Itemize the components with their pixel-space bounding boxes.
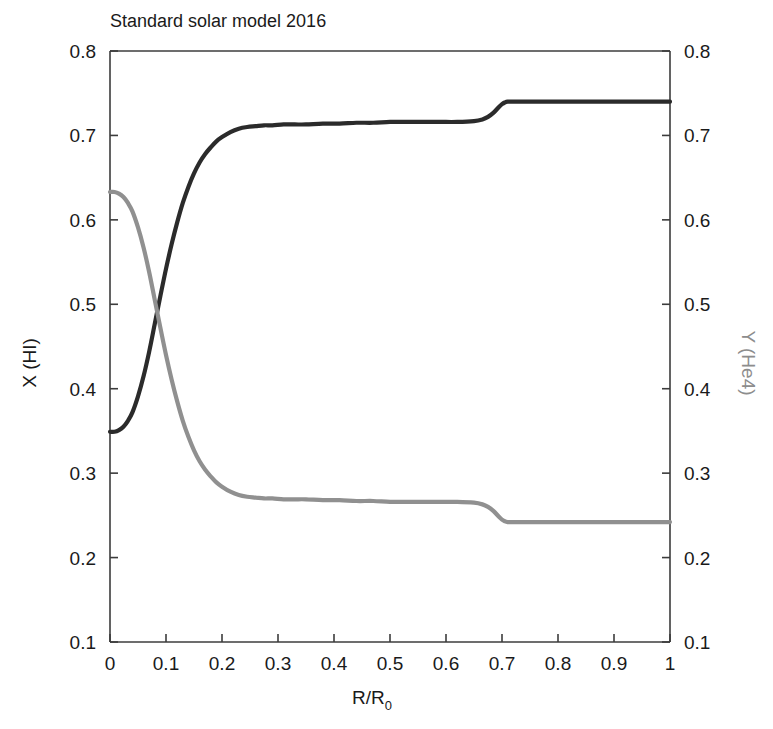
x-tick-label: 0.5 [377,653,403,674]
x-tick-label: 0.8 [545,653,571,674]
x-tick-label: 1 [665,653,676,674]
y-axis-left-title: X (HI) [19,338,40,388]
y-left-tick-label: 0.7 [70,125,96,146]
x-tick-label: 0.1 [153,653,179,674]
chart-figure: Standard solar model 2016 00.10.20.30.40… [0,0,773,729]
x-tick-label: 0.2 [209,653,235,674]
x-tick-label: 0.6 [433,653,459,674]
y-right-tick-label: 0.3 [684,463,710,484]
x-tick-label: 0.7 [489,653,515,674]
x-tick-label: 0.4 [321,653,348,674]
x-axis-title-sub: 0 [385,698,392,713]
y-right-tick-label: 0.7 [684,125,710,146]
y-right-tick-label: 0.6 [684,210,710,231]
y-right-tick-label: 0.8 [684,41,710,62]
x-axis-title-main: R/R [352,687,385,708]
y-left-tick-label: 0.2 [70,548,96,569]
x-tick-label: 0.9 [601,653,627,674]
y-left-tick-label: 0.5 [70,294,96,315]
y-right-tick-label: 0.4 [684,379,711,400]
figure-background [0,0,773,729]
y-right-tick-label: 0.5 [684,294,710,315]
y-left-tick-label: 0.6 [70,210,96,231]
x-tick-label: 0 [105,653,116,674]
y-left-tick-label: 0.1 [70,632,96,653]
y-left-tick-label: 0.4 [70,379,97,400]
y-right-tick-label: 0.2 [684,548,710,569]
y-right-tick-label: 0.1 [684,632,710,653]
y-axis-right-title: Y (He4) [738,330,759,395]
x-tick-label: 0.3 [265,653,291,674]
chart-canvas: Standard solar model 2016 00.10.20.30.40… [0,0,773,729]
y-left-tick-label: 0.8 [70,41,96,62]
y-left-tick-label: 0.3 [70,463,96,484]
chart-title: Standard solar model 2016 [110,11,326,31]
